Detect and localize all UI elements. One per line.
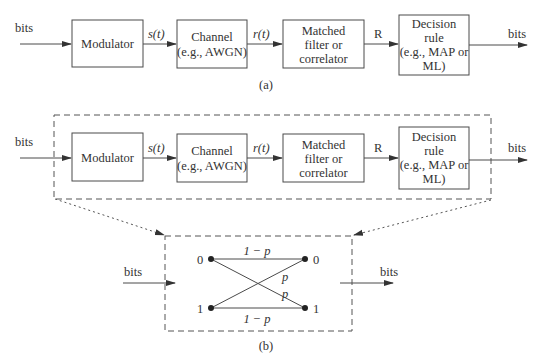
channel-block: [177, 20, 247, 68]
bottom-edge-label: 1 − p: [243, 312, 270, 326]
r-t-label: r(t): [253, 27, 270, 41]
digital-communication-diagram: bits Modulator s(t) Channel (e.g., AWGN)…: [0, 0, 538, 363]
diagram-a: bits Modulator s(t) Channel (e.g., AWGN)…: [15, 15, 527, 92]
r-label: R: [374, 27, 383, 41]
matched-filter-label-1: Matched: [302, 138, 346, 152]
channel-label-2: (e.g., AWGN): [177, 45, 247, 59]
input-bits-label: bits: [15, 21, 33, 35]
left-node-0-label: 0: [197, 253, 203, 267]
zoom-connector-left: [55, 199, 164, 235]
bsc-input-bits-label: bits: [124, 265, 142, 279]
left-node-1: [208, 305, 214, 311]
bsc-output-bits-label: bits: [380, 265, 398, 279]
decision-rule-label-3: (e.g., MAP or: [400, 45, 469, 59]
caption-b: (b): [259, 339, 274, 353]
matched-filter-label-3: correlator: [299, 166, 348, 180]
s-t-label: s(t): [148, 27, 165, 41]
right-node-0-label: 0: [313, 253, 319, 267]
right-node-1-label: 1: [313, 302, 319, 316]
caption-a: (a): [259, 78, 273, 92]
right-node-1: [302, 305, 308, 311]
decision-rule-label-1: Decision: [412, 17, 457, 31]
decision-rule-label-4: ML): [423, 59, 446, 73]
modulator-label: Modulator: [81, 151, 135, 165]
left-node-0: [208, 256, 214, 262]
modulator-label: Modulator: [81, 37, 135, 51]
cross-label-lower: p: [281, 287, 288, 301]
diagram-b: bits Modulator s(t) Channel (e.g., AWGN)…: [15, 115, 527, 353]
decision-rule-label-1: Decision: [412, 130, 457, 144]
r-label: R: [374, 141, 383, 155]
output-bits-label: bits: [508, 27, 526, 41]
decision-rule-label-3: (e.g., MAP or: [400, 158, 469, 172]
channel-label-1: Channel: [191, 144, 233, 158]
s-t-label: s(t): [148, 141, 165, 155]
channel-label-1: Channel: [191, 30, 233, 44]
r-t-label: r(t): [253, 141, 270, 155]
cross-label-upper: p: [281, 270, 288, 284]
left-node-1-label: 1: [197, 302, 203, 316]
zoom-connector-right: [354, 200, 491, 235]
input-bits-label: bits: [15, 135, 33, 149]
top-edge-label: 1 − p: [243, 244, 270, 258]
decision-rule-label-2: rule: [424, 31, 444, 45]
decision-rule-label-4: ML): [423, 172, 446, 186]
right-node-0: [302, 256, 308, 262]
matched-filter-label-3: correlator: [299, 52, 348, 66]
matched-filter-label-2: filter or: [305, 152, 344, 166]
binary-symmetric-channel: bits bits 0 1 0 1 1 − p 1 − p p p: [123, 236, 398, 331]
decision-rule-label-2: rule: [424, 144, 444, 158]
matched-filter-label-2: filter or: [305, 38, 344, 52]
matched-filter-label-1: Matched: [302, 24, 346, 38]
output-bits-label: bits: [508, 141, 526, 155]
channel-block: [177, 134, 247, 182]
channel-label-2: (e.g., AWGN): [177, 159, 247, 173]
